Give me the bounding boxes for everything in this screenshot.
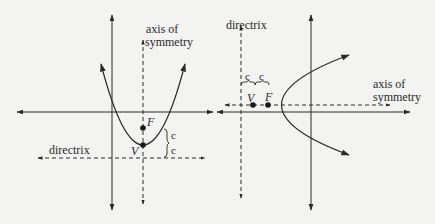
right-distance-label-right: c bbox=[259, 70, 264, 82]
left-distance-brace bbox=[164, 129, 169, 157]
left-axis-of-symmetry-label-line1: axis of bbox=[146, 22, 178, 36]
right-axis-of-symmetry-label-line2: symmetry bbox=[373, 90, 421, 104]
left-focus-point bbox=[140, 125, 146, 131]
left-axis-of-symmetry-label-line2: symmetry bbox=[145, 35, 193, 49]
left-distance-label-lower: c bbox=[171, 144, 176, 156]
left-vertex-label: V bbox=[131, 144, 140, 158]
right-distance-label-left: c bbox=[245, 70, 250, 82]
right-focus-label: F bbox=[264, 90, 273, 104]
left-directrix-label: directrix bbox=[49, 143, 90, 157]
left-vertex-point bbox=[140, 142, 146, 148]
left-diagram: axis of symmetry directrix V F c c bbox=[17, 15, 213, 210]
left-focus-label: F bbox=[146, 115, 155, 129]
right-diagram: directrix axis of symmetry V F c c bbox=[217, 15, 421, 210]
right-directrix-label: directrix bbox=[226, 18, 267, 32]
right-axis-of-symmetry-label-line1: axis of bbox=[373, 77, 405, 91]
parabola-diagrams: axis of symmetry directrix V F c c direc… bbox=[0, 0, 435, 224]
left-distance-label-upper: c bbox=[171, 129, 176, 141]
